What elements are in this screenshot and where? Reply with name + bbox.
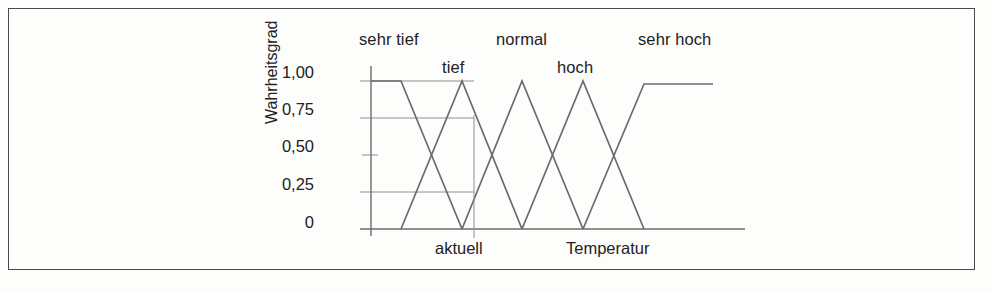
figure-frame-border bbox=[8, 8, 975, 270]
y-tick-label-0-25: 0,25 bbox=[252, 176, 314, 193]
y-tick-label-0-75: 0,75 bbox=[252, 101, 314, 118]
set-label-sehr-hoch: sehr hoch bbox=[638, 31, 711, 48]
y-tick-label-1-00: 1,00 bbox=[252, 64, 314, 81]
y-tick-label-0-50: 0,50 bbox=[252, 138, 314, 155]
aktuell-label: aktuell bbox=[435, 240, 483, 257]
set-label-tief: tief bbox=[442, 59, 464, 76]
set-label-normal: normal bbox=[496, 31, 547, 48]
set-label-sehr-tief: sehr tief bbox=[359, 31, 419, 48]
y-tick-label-0: 0 bbox=[252, 214, 314, 231]
x-axis-title: Temperatur bbox=[566, 240, 649, 257]
figure-root: Wahrheitsgrad 1,00 0,75 0,50 0,25 0 sehr… bbox=[0, 0, 993, 291]
set-label-hoch: hoch bbox=[557, 59, 593, 76]
